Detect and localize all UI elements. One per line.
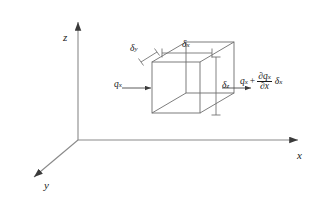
y-axis-label: y <box>44 180 49 191</box>
q-x-inflow-label: qx <box>114 80 122 90</box>
q-x-outflow-fraction: ∂qx ∂x <box>257 72 272 92</box>
q-x-inflow-subscript: x <box>119 81 122 89</box>
axis-group <box>34 22 298 177</box>
q-x-outflow-denominator: ∂x <box>257 82 272 92</box>
delta-y-label: δy <box>130 44 138 54</box>
delta-y-tick-start <box>139 59 144 66</box>
delta-x-label: δx <box>182 40 190 50</box>
delta-x-subscript: x <box>186 41 189 49</box>
x-axis-label: x <box>297 150 302 161</box>
cube-front-face <box>152 62 200 113</box>
q-x-outflow-numerator-symbol: ∂q <box>258 71 267 81</box>
y-axis-line <box>34 140 78 177</box>
dimension-lines <box>139 49 221 116</box>
q-x-outflow-trailing: δx <box>272 77 283 87</box>
delta-y-tick-end <box>155 49 160 56</box>
cube-edge-bottom-right <box>200 93 234 113</box>
q-x-outflow-operator: + <box>248 77 257 87</box>
diagram-canvas <box>0 0 322 197</box>
delta-y-subscript: y <box>134 45 137 53</box>
delta-z-subscript: z <box>226 82 229 90</box>
heat-conduction-diagram: z x y δx δy δz qx qx+ ∂qx ∂x δx <box>0 0 322 197</box>
q-x-outflow-label: qx+ ∂qx ∂x δx <box>240 72 282 92</box>
q-x-outflow-numerator-subscript: x <box>268 73 271 81</box>
delta-z-label: δz <box>222 81 229 91</box>
cube-edge-top-right <box>200 42 234 62</box>
q-x-outflow-trailing-subscript: x <box>279 78 282 86</box>
z-axis-label: z <box>63 32 67 43</box>
cube-edge-bottom-left <box>152 93 186 113</box>
q-x-outflow-base: qx <box>240 77 248 87</box>
